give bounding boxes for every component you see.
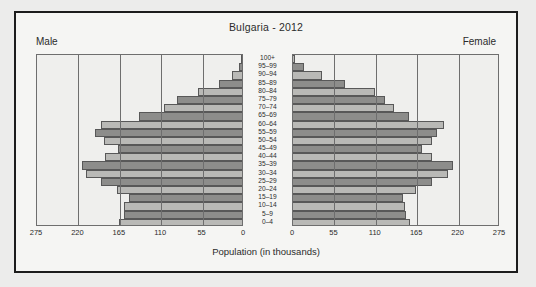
age-group-label-85-89: 85–89 xyxy=(243,79,292,87)
bar-row xyxy=(293,121,498,129)
bar-male-40-44 xyxy=(105,153,242,161)
age-group-label-5-9: 5–9 xyxy=(243,210,292,218)
age-group-label-65-69: 65–69 xyxy=(243,111,292,119)
bar-row xyxy=(293,186,498,194)
bar-female-0-4 xyxy=(293,219,410,226)
bar-male-95-99 xyxy=(239,63,242,71)
bar-row xyxy=(37,145,242,153)
figure-inner: Bulgaria - 2012 Male Female 100+95–9990–… xyxy=(16,13,516,271)
gridline xyxy=(120,55,121,225)
bar-male-80-84 xyxy=(198,88,242,96)
bar-row xyxy=(37,170,242,178)
bar-row xyxy=(37,202,242,210)
age-group-label-75-79: 75–79 xyxy=(243,95,292,103)
age-group-label-0-4: 0–4 xyxy=(243,218,292,226)
bar-row xyxy=(37,161,242,169)
bar-male-55-59 xyxy=(95,129,242,137)
age-group-label-90-94: 90–94 xyxy=(243,70,292,78)
age-group-label-35-39: 35–39 xyxy=(243,160,292,168)
bar-male-75-79 xyxy=(177,96,242,104)
bar-row xyxy=(37,194,242,202)
x-tick-female-55: 55 xyxy=(329,228,337,237)
bar-row xyxy=(37,129,242,137)
bar-row xyxy=(293,80,498,88)
bar-row xyxy=(293,88,498,96)
x-tick-female-0: 0 xyxy=(290,228,294,237)
scanned-page: Bulgaria - 2012 Male Female 100+95–9990–… xyxy=(0,0,536,287)
bar-male-50-54 xyxy=(104,137,242,145)
gridline xyxy=(376,55,377,225)
bar-male-15-19 xyxy=(129,194,242,202)
gridline xyxy=(203,55,204,225)
male-x-axis-ticks: 275220165110550 xyxy=(36,228,243,242)
bar-male-100plus xyxy=(241,55,242,63)
x-tick-male-110: 110 xyxy=(154,228,166,237)
female-x-axis-ticks: 055110165220275 xyxy=(292,228,499,242)
bar-row xyxy=(293,161,498,169)
bar-row xyxy=(37,63,242,71)
bar-male-85-89 xyxy=(219,80,242,88)
bar-female-85-89 xyxy=(293,80,345,88)
bar-row xyxy=(293,145,498,153)
bar-row xyxy=(293,96,498,104)
figure-frame: Bulgaria - 2012 Male Female 100+95–9990–… xyxy=(14,11,518,273)
age-group-label-80-84: 80–84 xyxy=(243,87,292,95)
bar-female-25-29 xyxy=(293,178,432,186)
bar-row xyxy=(293,170,498,178)
gridline xyxy=(417,55,418,225)
gridline xyxy=(78,55,79,225)
gridline xyxy=(334,55,335,225)
bar-female-55-59 xyxy=(293,129,437,137)
bar-row xyxy=(293,211,498,219)
age-group-axis: 100+95–9990–9485–8980–8475–7970–7465–696… xyxy=(243,54,292,226)
x-tick-female-110: 110 xyxy=(369,228,381,237)
age-group-label-20-24: 20–24 xyxy=(243,185,292,193)
x-tick-female-165: 165 xyxy=(410,228,423,237)
male-bar-group xyxy=(37,55,242,225)
x-tick-female-220: 220 xyxy=(451,228,464,237)
bar-row xyxy=(293,137,498,145)
x-tick-male-0: 0 xyxy=(241,228,245,237)
bar-male-65-69 xyxy=(139,112,242,120)
bar-female-95-99 xyxy=(293,63,304,71)
age-group-label-50-54: 50–54 xyxy=(243,136,292,144)
bar-row xyxy=(293,129,498,137)
age-group-label-100plus: 100+ xyxy=(243,54,292,62)
bar-row xyxy=(37,211,242,219)
bar-row xyxy=(37,137,242,145)
gridline xyxy=(459,55,460,225)
bar-row xyxy=(37,96,242,104)
bar-male-25-29 xyxy=(101,178,243,186)
female-panel-label: Female xyxy=(463,36,496,47)
female-bar-group xyxy=(293,55,498,225)
bar-row xyxy=(293,104,498,112)
age-group-label-55-59: 55–59 xyxy=(243,128,292,136)
bar-male-5-9 xyxy=(124,211,242,219)
age-group-label-45-49: 45–49 xyxy=(243,144,292,152)
bar-female-30-34 xyxy=(293,170,448,178)
bar-female-50-54 xyxy=(293,137,432,145)
x-tick-male-165: 165 xyxy=(113,228,126,237)
bar-female-45-49 xyxy=(293,145,422,153)
bar-row xyxy=(293,194,498,202)
age-group-label-70-74: 70–74 xyxy=(243,103,292,111)
bar-female-15-19 xyxy=(293,194,403,202)
bar-row xyxy=(37,80,242,88)
male-panel-label: Male xyxy=(36,36,58,47)
bar-male-0-4 xyxy=(119,219,242,226)
bar-row xyxy=(37,104,242,112)
x-tick-male-220: 220 xyxy=(71,228,84,237)
bar-row xyxy=(293,153,498,161)
age-group-label-40-44: 40–44 xyxy=(243,152,292,160)
bar-row xyxy=(37,112,242,120)
bar-female-10-14 xyxy=(293,202,405,210)
bar-female-100plus xyxy=(293,55,295,63)
bar-row xyxy=(293,112,498,120)
x-tick-male-55: 55 xyxy=(197,228,205,237)
x-axis-title: Population (in thousands) xyxy=(16,246,516,257)
bar-female-5-9 xyxy=(293,211,406,219)
bar-row xyxy=(37,88,242,96)
bar-female-90-94 xyxy=(293,71,322,79)
bar-row xyxy=(37,71,242,79)
bar-row xyxy=(37,153,242,161)
